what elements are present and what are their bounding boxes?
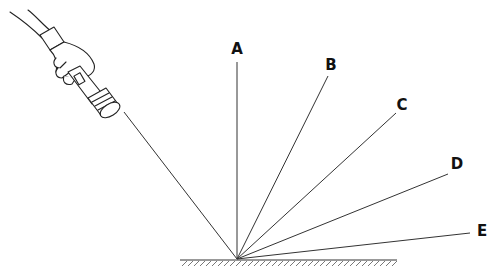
hatch-mark bbox=[212, 261, 217, 266]
reflected-rays bbox=[237, 62, 470, 259]
label-d: D bbox=[451, 155, 463, 173]
hatch-mark bbox=[332, 261, 337, 266]
hatch-mark bbox=[272, 261, 277, 266]
hatch-mark bbox=[320, 261, 325, 266]
hatch-mark bbox=[362, 261, 367, 266]
label-a: A bbox=[231, 40, 243, 58]
hatch-mark bbox=[218, 261, 223, 266]
hatch-mark bbox=[200, 261, 205, 266]
hatch-mark bbox=[296, 261, 301, 266]
hatch-mark bbox=[368, 261, 373, 266]
ray-b bbox=[237, 76, 328, 259]
hatch-mark bbox=[338, 261, 343, 266]
hatch-mark bbox=[314, 261, 319, 266]
hatch-mark bbox=[248, 261, 253, 266]
hatch-mark bbox=[206, 261, 211, 266]
hatch-mark bbox=[188, 261, 193, 266]
hatch-mark bbox=[224, 261, 229, 266]
label-e: E bbox=[477, 222, 487, 240]
incident-ray bbox=[124, 112, 237, 259]
hatch-mark bbox=[278, 261, 283, 266]
hatch-mark bbox=[182, 261, 187, 266]
label-b: B bbox=[325, 56, 336, 74]
hatch-mark bbox=[344, 261, 349, 266]
hatch-mark bbox=[350, 261, 355, 266]
ray-c bbox=[237, 113, 396, 259]
hatch-mark bbox=[386, 261, 391, 266]
hatch-mark bbox=[326, 261, 331, 266]
hatch-mark bbox=[302, 261, 307, 266]
hatch-mark bbox=[284, 261, 289, 266]
ray-e bbox=[237, 233, 470, 259]
reflection-diagram: ABCDE bbox=[0, 0, 492, 275]
reflective-surface bbox=[180, 260, 397, 266]
flashlight-hand-icon bbox=[10, 10, 123, 121]
hatch-mark bbox=[242, 261, 247, 266]
hatch-mark bbox=[392, 261, 397, 266]
hatch-mark bbox=[194, 261, 199, 266]
hatch-mark bbox=[356, 261, 361, 266]
hatch-mark bbox=[308, 261, 313, 266]
hatch-mark bbox=[380, 261, 385, 266]
ray-d bbox=[237, 174, 448, 259]
hatch-mark bbox=[290, 261, 295, 266]
hatch-mark bbox=[230, 261, 235, 266]
hatch-mark bbox=[254, 261, 259, 266]
label-c: C bbox=[396, 96, 407, 114]
hatch-mark bbox=[236, 261, 241, 266]
hatch-mark bbox=[266, 261, 271, 266]
hatch-mark bbox=[260, 261, 265, 266]
hatch-mark bbox=[374, 261, 379, 266]
